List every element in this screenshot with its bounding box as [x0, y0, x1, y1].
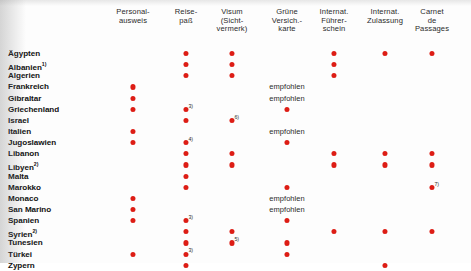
- table-row: Jugoslawien4): [0, 137, 471, 148]
- table-row: Malta: [0, 171, 471, 182]
- country-label: Griechenland: [8, 104, 59, 115]
- required-dot-marker: [331, 162, 336, 167]
- country-name: Libanon: [8, 149, 39, 158]
- required-dot-marker: [183, 73, 188, 78]
- required-dot-marker: [183, 229, 188, 234]
- red-dot-icon: [229, 162, 234, 167]
- cell-footnote-marker: 3): [188, 104, 193, 109]
- country-name: Griechenland: [8, 105, 59, 114]
- required-dot-marker: [229, 151, 234, 156]
- red-dot-icon: [284, 107, 289, 112]
- cell-visum: [229, 48, 234, 59]
- red-dot-icon: [331, 73, 336, 78]
- required-dot-marker: 3): [183, 107, 188, 112]
- required-dot-marker: [284, 218, 289, 223]
- cell-gruene_karte: empfohlen: [269, 193, 304, 204]
- cell-visum: 6): [229, 115, 234, 126]
- required-dot-marker: 3): [183, 218, 188, 223]
- red-dot-icon: [331, 62, 336, 67]
- required-dot-marker: [183, 51, 188, 56]
- table-row: Italienempfohlen: [0, 126, 471, 137]
- red-dot-icon: [382, 229, 387, 234]
- recommended-label: empfohlen: [269, 81, 304, 92]
- table-row: Türkei3): [0, 249, 471, 260]
- red-dot-icon: [331, 51, 336, 56]
- country-label: Frankreich: [8, 81, 49, 92]
- cell-int_zulassung: [382, 148, 387, 159]
- cell-carnet: [429, 148, 434, 159]
- red-dot-icon: [429, 151, 434, 156]
- required-dot-marker: [183, 162, 188, 167]
- cell-carnet: [429, 226, 434, 237]
- country-label: Zypern: [8, 260, 35, 271]
- country-label: Türkei: [8, 249, 32, 260]
- cell-personalausweis: [130, 137, 135, 148]
- cell-visum: [229, 159, 234, 170]
- cell-personalausweis: [130, 93, 135, 104]
- cell-reisepass: 3): [183, 249, 188, 260]
- red-dot-icon: [130, 129, 135, 134]
- cell-personalausweis: [130, 193, 135, 204]
- country-footnote-marker: 2): [32, 228, 37, 234]
- red-dot-icon: [183, 73, 188, 78]
- required-dot-marker: [183, 174, 188, 179]
- red-dot-icon: [382, 51, 387, 56]
- cell-reisepass: [183, 159, 188, 170]
- red-dot-icon: [183, 185, 188, 190]
- cell-reisepass: [183, 48, 188, 59]
- cell-reisepass: [183, 171, 188, 182]
- required-dot-marker: [284, 107, 289, 112]
- cell-reisepass: [183, 182, 188, 193]
- cell-gruene_karte: empfohlen: [269, 204, 304, 215]
- red-dot-icon: [183, 263, 188, 268]
- table-row: Libyen2): [0, 159, 471, 170]
- red-dot-icon: [130, 84, 135, 89]
- country-label: Ägypten: [8, 48, 40, 59]
- red-dot-icon: [429, 51, 434, 56]
- required-dot-marker: [183, 185, 188, 190]
- required-dot-marker: [130, 196, 135, 201]
- cell-visum: [229, 59, 234, 70]
- country-name: Monaco: [8, 194, 38, 203]
- required-dot-marker: [229, 229, 234, 234]
- required-dot-marker: [130, 84, 135, 89]
- red-dot-icon: [229, 229, 234, 234]
- country-footnote-marker: 2): [34, 161, 39, 167]
- country-label: San Marino: [8, 204, 51, 215]
- required-dot-marker: [130, 252, 135, 257]
- cell-gruene_karte: [284, 104, 289, 115]
- country-label: Italien: [8, 126, 31, 137]
- red-dot-icon: [284, 218, 289, 223]
- red-dot-icon: [284, 185, 289, 190]
- red-dot-icon: [284, 140, 289, 145]
- required-dot-marker: [130, 96, 135, 101]
- red-dot-icon: [284, 240, 289, 245]
- country-name: Marokko: [8, 183, 41, 192]
- red-dot-icon: [130, 196, 135, 201]
- cell-footnote-marker: 7): [434, 182, 439, 187]
- red-dot-icon: [284, 252, 289, 257]
- table-row: Marokko7): [0, 182, 471, 193]
- country-label: Israel: [8, 115, 29, 126]
- cell-footnote-marker: 6): [234, 115, 239, 120]
- red-dot-icon: [229, 151, 234, 156]
- cell-personalausweis: [130, 81, 135, 92]
- recommended-label: empfohlen: [269, 126, 304, 137]
- required-dot-marker: [382, 263, 387, 268]
- required-dot-marker: [382, 51, 387, 56]
- required-dot-marker: [284, 140, 289, 145]
- red-dot-icon: [382, 263, 387, 268]
- country-label: Spanien: [8, 215, 39, 226]
- cell-reisepass: [183, 115, 188, 126]
- required-dot-marker: [331, 73, 336, 78]
- required-dot-marker: [382, 162, 387, 167]
- table-row: Ägypten: [0, 48, 471, 59]
- cell-reisepass: 4): [183, 137, 188, 148]
- recommended-label: empfohlen: [269, 93, 304, 104]
- country-name: Jugoslawien: [8, 138, 56, 147]
- red-dot-icon: [229, 51, 234, 56]
- red-dot-icon: [429, 229, 434, 234]
- red-dot-icon: [183, 240, 188, 245]
- required-dot-marker: [229, 51, 234, 56]
